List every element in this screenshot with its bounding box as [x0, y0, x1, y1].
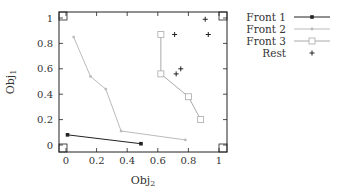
svg-text:Front 1: Front 1 — [246, 11, 286, 23]
x-tick-label: 0 — [63, 155, 69, 166]
x-tick-label: 0.4 — [119, 155, 135, 166]
y-tick-label: 1 — [47, 13, 53, 24]
y-tick-label: 0 — [47, 140, 53, 151]
plot-frame — [59, 12, 227, 152]
y-tick-label: 0.6 — [37, 63, 53, 74]
series-front-3 — [158, 32, 204, 123]
x-tick-label: 0.2 — [89, 155, 105, 166]
x-tick-label: 0.8 — [180, 155, 196, 166]
y-axis-label: Obj1 — [4, 70, 18, 95]
svg-text:Rest: Rest — [262, 47, 287, 59]
series-rest — [172, 17, 211, 77]
data-series — [66, 17, 211, 146]
svg-text:Front 3: Front 3 — [246, 35, 286, 47]
legend: Front 1Front 2Front 3Rest — [246, 11, 330, 59]
x-axis-label: Obj2 — [131, 174, 156, 188]
series-front-1 — [66, 133, 143, 145]
legend-item: Front 1 — [246, 11, 330, 23]
svg-text:Front 2: Front 2 — [246, 23, 286, 35]
x-tick-label: 1 — [216, 155, 222, 166]
series-front-2 — [72, 36, 186, 142]
y-tick-label: 0.2 — [37, 114, 53, 125]
y-tick-label: 0.4 — [37, 89, 53, 100]
y-tick-label: 0.8 — [37, 38, 53, 49]
legend-item: Front 3 — [246, 35, 330, 47]
pareto-front-chart: 00.20.40.60.8100.20.40.60.81 Obj2 Obj1 F… — [0, 0, 339, 192]
legend-item: Front 2 — [246, 23, 330, 35]
x-tick-label: 0.6 — [150, 155, 166, 166]
legend-item: Rest — [262, 47, 314, 59]
